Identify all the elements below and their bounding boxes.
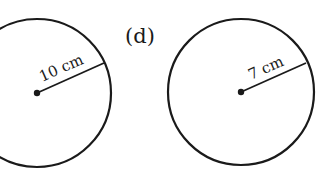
center-dot-left bbox=[34, 90, 40, 96]
part-label: (d) bbox=[125, 24, 155, 48]
circle-left: 10 cm bbox=[0, 19, 111, 167]
center-dot-right bbox=[238, 89, 244, 95]
radius-label-right: 7 cm bbox=[245, 52, 286, 83]
radius-label-left: 10 cm bbox=[36, 50, 86, 85]
circle-right: 7 cm bbox=[168, 19, 314, 165]
diagram-canvas: 10 cm (d) 7 cm bbox=[0, 0, 331, 177]
circle-outline-left bbox=[0, 19, 111, 167]
